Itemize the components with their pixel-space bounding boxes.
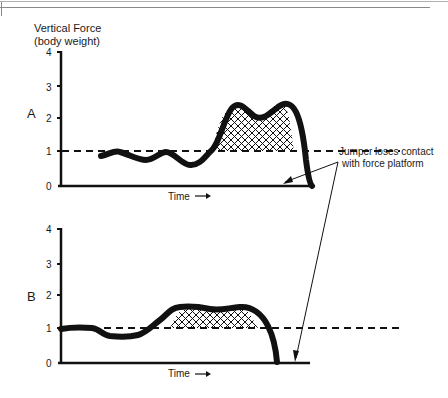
tick-label-4: 4 <box>46 47 52 58</box>
tick-label-4: 4 <box>46 224 52 235</box>
tick-label-2: 2 <box>46 113 52 124</box>
force-plot-figure: Vertical Force (body weight) A 4 3 2 1 0… <box>0 0 448 398</box>
tick-label-0: 0 <box>46 358 52 369</box>
annotation: Jumper loses contact with force platform <box>283 146 434 362</box>
tick-label-2: 2 <box>46 290 52 301</box>
y-axis-title-line1: Vertical Force <box>34 22 101 34</box>
panel-b-y-ticks: 4 3 2 1 0 <box>46 224 61 369</box>
panel-a-time-arrow-icon <box>195 193 211 199</box>
arrow-head-a-icon <box>283 176 293 184</box>
panel-a-time-label: Time <box>168 191 190 202</box>
tick-label-3: 3 <box>46 82 52 93</box>
annotation-line1: Jumper loses contact <box>339 146 434 157</box>
annotation-arrow-b <box>296 162 338 358</box>
tick-label-1: 1 <box>46 323 52 334</box>
panel-b-label: B <box>27 289 36 304</box>
y-axis-title-line2: (body weight) <box>34 35 100 47</box>
tick-label-3: 3 <box>46 259 52 270</box>
panel-b: B 4 3 2 1 0 Time <box>27 224 400 379</box>
panel-a: A 4 3 2 1 0 Time <box>27 47 400 202</box>
annotation-line2: with force platform <box>341 158 424 169</box>
tick-label-0: 0 <box>46 181 52 192</box>
panel-b-time-label: Time <box>168 368 190 379</box>
panel-b-time-arrow-icon <box>195 371 211 377</box>
panel-a-y-ticks: 4 3 2 1 0 <box>46 47 61 192</box>
panel-a-label: A <box>27 106 36 121</box>
arrow-head-b-icon <box>293 350 299 362</box>
tick-label-1: 1 <box>46 146 52 157</box>
